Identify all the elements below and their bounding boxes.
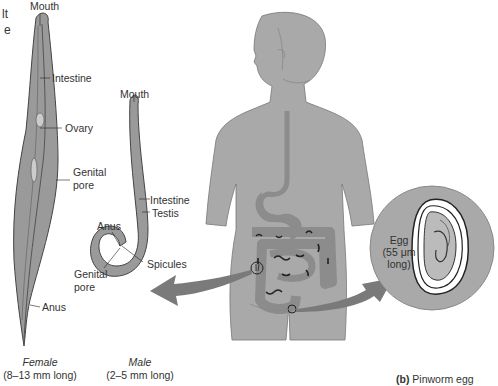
female-ovary-label: Ovary xyxy=(65,122,93,134)
male-genital-pore-label-2: pore xyxy=(74,281,95,293)
pinworm-illustration xyxy=(0,0,498,386)
male-worm xyxy=(91,95,150,276)
female-anus-label: Anus xyxy=(42,301,66,313)
female-intestine-label: Intestine xyxy=(52,72,92,84)
human-figure xyxy=(206,12,374,340)
egg-label-line2: (55 μm xyxy=(383,246,416,258)
female-caption: Female (8–13 mm long) xyxy=(2,356,78,382)
panel-letter: (b) xyxy=(396,373,409,385)
male-mouth-label: Mouth xyxy=(120,88,149,100)
male-size-label: (2–5 mm long) xyxy=(106,369,174,381)
female-genital-pore-label-2: pore xyxy=(73,179,94,191)
panel-caption-text: Pinworm egg xyxy=(409,373,473,385)
egg-label-line1: Egg xyxy=(390,234,409,246)
male-intestine-label: Intestine xyxy=(150,194,190,206)
male-testis-label: Testis xyxy=(152,207,179,219)
panel-caption: (b) Pinworm egg xyxy=(396,373,474,385)
male-anus-label: Anus xyxy=(97,220,121,232)
female-genital-pore-label-1: Genital xyxy=(73,166,106,178)
female-size-label: (8–13 mm long) xyxy=(3,369,77,381)
title-fragment-line2: e xyxy=(4,24,11,36)
male-genital-pore-label-1: Genital xyxy=(74,268,107,280)
male-spicules-label: Spicules xyxy=(147,258,187,270)
male-caption: Male (2–5 mm long) xyxy=(100,356,180,382)
female-mouth-label: Mouth xyxy=(30,0,59,12)
title-fragment-line1: lt xyxy=(2,8,8,20)
egg-label-line3: long) xyxy=(387,258,410,270)
egg-label: Egg (55 μm long) xyxy=(381,234,417,270)
female-worm xyxy=(14,13,70,346)
female-sex-label: Female xyxy=(22,356,57,368)
male-sex-label: Male xyxy=(129,356,152,368)
